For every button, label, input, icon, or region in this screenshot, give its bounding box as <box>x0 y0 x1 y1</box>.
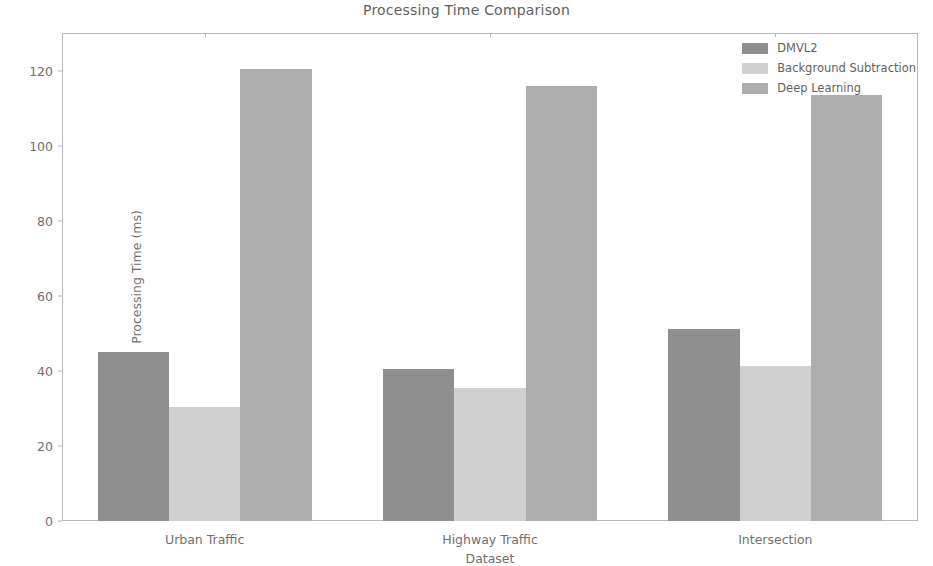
legend-label: DMVL2 <box>777 38 817 58</box>
y-axis-label: Processing Time (ms) <box>129 210 144 344</box>
y-tick-mark <box>58 70 62 71</box>
legend: DMVL2Background SubtractionDeep Learning <box>742 38 916 98</box>
legend-swatch-icon <box>742 83 768 94</box>
x-tick-label: Highway Traffic <box>442 532 538 547</box>
plot-area: Processing Time (ms) 020406080100120 Urb… <box>62 33 918 521</box>
legend-label: Deep Learning <box>777 78 861 98</box>
y-tick-mark <box>58 295 62 296</box>
y-tick-mark <box>58 445 62 446</box>
bar <box>740 366 811 521</box>
x-tick-label: Intersection <box>738 532 812 547</box>
bar <box>240 69 311 521</box>
legend-swatch-icon <box>742 43 768 54</box>
legend-swatch-icon <box>742 63 768 74</box>
x-tick-mark <box>775 33 776 37</box>
legend-label: Background Subtraction <box>777 58 916 78</box>
bar <box>169 407 240 521</box>
y-tick-mark <box>58 521 62 522</box>
y-tick-mark <box>58 370 62 371</box>
x-tick-mark <box>205 33 206 37</box>
bar <box>383 369 454 521</box>
x-tick-mark <box>490 33 491 37</box>
bar <box>98 352 169 521</box>
y-tick-mark <box>58 145 62 146</box>
caption-bleed-text <box>0 0 933 1</box>
bar <box>811 95 882 521</box>
bar <box>668 329 739 521</box>
legend-item: Background Subtraction <box>742 58 916 78</box>
x-tick-label: Urban Traffic <box>165 532 244 547</box>
bar <box>526 86 597 521</box>
legend-item: Deep Learning <box>742 78 916 98</box>
chart-title: Processing Time Comparison <box>0 2 933 18</box>
y-tick-mark <box>58 220 62 221</box>
bar <box>454 388 525 521</box>
legend-item: DMVL2 <box>742 38 916 58</box>
x-axis-label: Dataset <box>62 551 918 566</box>
